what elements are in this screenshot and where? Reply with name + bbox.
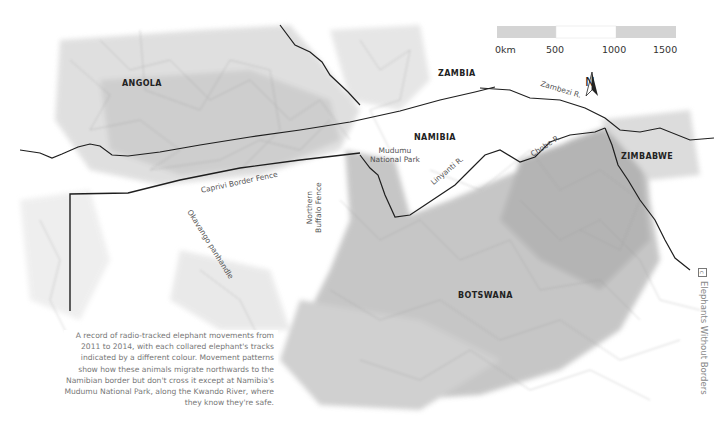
country-label-zimbabwe: ZIMBABWE (621, 152, 673, 161)
mudumu-park-label: Mudumu National Park (370, 146, 420, 164)
scale-label-1000: 1000 (602, 44, 626, 55)
scale-bar (497, 26, 676, 38)
country-label-botswana: BOTSWANA (458, 291, 513, 300)
image-credit: cElephants Without Borders (698, 268, 709, 395)
elephant-movement-map: 0km 500 1000 1500 N ANGOLA ZAMBIA NAMIBI… (0, 0, 714, 427)
country-label-angola: ANGOLA (122, 79, 162, 88)
country-label-zambia: ZAMBIA (438, 69, 476, 78)
country-label-namibia: NAMIBIA (414, 133, 456, 142)
scale-label-0: 0km (495, 44, 516, 55)
cc-icon: c (698, 268, 707, 277)
scale-label-1500: 1500 (653, 44, 677, 55)
map-caption: A record of radio-tracked elephant movem… (64, 330, 278, 410)
north-label: N (585, 74, 595, 89)
buffalo-fence-label: Northern Buffalo Fence (305, 182, 323, 233)
scale-label-500: 500 (546, 44, 564, 55)
